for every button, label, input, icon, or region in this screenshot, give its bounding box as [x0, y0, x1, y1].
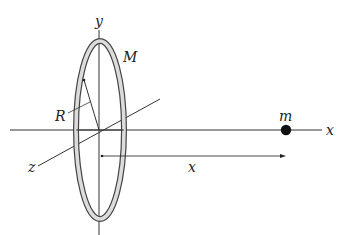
- point-mass-label: m: [279, 108, 292, 124]
- radius-line: [84, 80, 99, 130]
- radius-label: R: [54, 108, 66, 124]
- y-axis-label: y: [94, 13, 104, 29]
- point-mass: [281, 125, 291, 135]
- radius-endpoint: [83, 79, 86, 82]
- distance-label: x: [188, 159, 196, 175]
- ring-gravity-diagram: y M R z m x x: [0, 0, 355, 235]
- distance-arrow: [101, 154, 286, 158]
- ring-mass-label: M: [122, 49, 138, 65]
- z-axis-label: z: [27, 159, 36, 175]
- x-axis-label: x: [326, 122, 334, 138]
